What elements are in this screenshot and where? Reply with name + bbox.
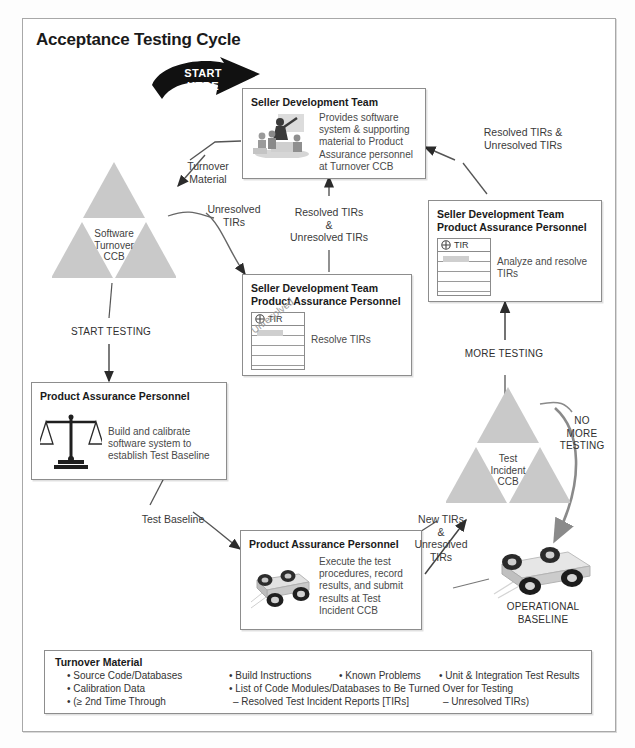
legend-cell: • List of Code Modules/Databases to Be T…: [229, 683, 513, 694]
tir-document-header: TIR: [252, 313, 304, 326]
label-start-testing: START TESTING: [55, 326, 167, 339]
box-seller-pa-resolve[interactable]: Seller Development Team Product Assuranc…: [242, 274, 412, 376]
page-title: Acceptance Testing Cycle: [36, 30, 241, 50]
box-description: Provides software system & supporting ma…: [319, 112, 417, 174]
label-unresolved-tirs: Unresolved TIRs: [196, 203, 272, 228]
legend-row: • Source Code/Databases • Build Instruct…: [67, 670, 591, 683]
start-here-label: START HERE: [172, 67, 234, 92]
label-resolved-unresolved-center: Resolved TIRs & Unresolved TIRs: [264, 206, 394, 244]
label-more-testing: MORE TESTING: [446, 348, 562, 361]
plus-circle-icon: [441, 240, 451, 250]
ccb-software-turnover[interactable]: Software Turnover CCB: [52, 160, 176, 284]
label-new-unresolved-tirs: New TIRs & Unresolved TIRs: [400, 513, 482, 563]
box-header: Seller Development Team Product Assuranc…: [243, 275, 411, 310]
tir-document-icon: TIR Unresolved: [251, 312, 305, 370]
box-pa-execute[interactable]: Product Assurance Personnel: [240, 530, 422, 630]
legend-cell: • (≥ 2nd Time Through: [67, 696, 166, 707]
legend-cell: • Calibration Data: [67, 683, 145, 694]
legend-cell: – Resolved Test Incident Reports [TIRs]: [233, 696, 409, 707]
tir-document-header: TIR: [438, 239, 490, 252]
diagram-canvas: Acceptance Testing Cycle: [0, 0, 635, 748]
legend-row: • (≥ 2nd Time Through – Resolved Test In…: [67, 696, 591, 709]
box-description: Resolve TIRs: [311, 312, 403, 346]
tir-document-highlight: [257, 330, 283, 336]
box-seller-pa-analyze[interactable]: Seller Development Team Product Assuranc…: [428, 200, 602, 302]
box-seller-development-team[interactable]: Seller Development Team: [242, 88, 426, 179]
label-no-more-testing: NO MORE TESTING: [552, 415, 612, 453]
box-description: Analyze and resolve TIRs: [497, 238, 593, 281]
legend-cell: – Unresolved TIRs): [443, 696, 529, 707]
legend-row: • Calibration Data • List of Code Module…: [67, 683, 591, 696]
box-description: Build and calibrate software system to e…: [108, 412, 218, 463]
legend-cell: • Unit & Integration Test Results: [439, 670, 580, 681]
label-operational-baseline: OPERATIONAL BASELINE: [488, 601, 598, 626]
ccb-label: Software Turnover CCB: [52, 228, 176, 263]
box-pa-build[interactable]: Product Assurance Personnel Build and ca…: [31, 382, 227, 480]
meeting-presentation-icon: [251, 112, 313, 162]
box-description: Execute the test procedures, record resu…: [319, 556, 413, 618]
legend-cell: • Source Code/Databases: [67, 670, 182, 681]
ccb-label: Test Incident CCB: [446, 453, 570, 488]
legend-title: Turnover Material: [45, 651, 591, 670]
rover-vehicle-icon: [249, 556, 313, 618]
balance-scale-icon: [40, 412, 102, 474]
tir-document-label: TIR: [268, 314, 283, 324]
label-resolved-unresolved-right: Resolved TIRs & Unresolved TIRs: [458, 126, 588, 151]
tir-document-label: TIR: [454, 240, 469, 250]
tir-document-highlight: [443, 256, 469, 262]
label-turnover-material: Turnover Material: [168, 160, 248, 185]
legend-turnover-material: Turnover Material • Source Code/Database…: [44, 650, 592, 714]
box-header: Seller Development Team Product Assuranc…: [429, 201, 601, 236]
legend-cell: • Known Problems: [339, 670, 421, 681]
legend-cell: • Build Instructions: [229, 670, 311, 681]
plus-circle-icon: [255, 314, 265, 324]
box-header: Product Assurance Personnel: [241, 531, 421, 554]
tir-document-icon: TIR: [437, 238, 491, 296]
box-header: Product Assurance Personnel: [32, 383, 226, 406]
label-test-baseline: Test Baseline: [128, 513, 218, 526]
operational-baseline-vehicle: [492, 538, 600, 604]
box-header: Seller Development Team: [243, 89, 425, 112]
